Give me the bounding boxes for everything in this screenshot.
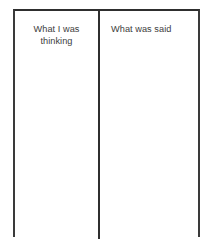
column-header-said: What was said xyxy=(100,23,200,35)
column-what-was-said[interactable]: What was said xyxy=(100,11,200,239)
two-column-table: What I was thinking What was said xyxy=(13,9,200,237)
column-body-thinking[interactable] xyxy=(15,53,98,239)
column-body-said[interactable] xyxy=(100,53,200,239)
worksheet-canvas: What I was thinking What was said xyxy=(0,0,210,251)
column-what-i-was-thinking[interactable]: What I was thinking xyxy=(15,11,98,239)
column-header-thinking: What I was thinking xyxy=(15,23,98,48)
